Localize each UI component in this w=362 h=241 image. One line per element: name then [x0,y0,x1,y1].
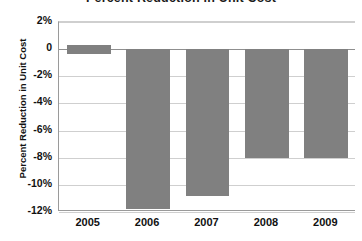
x-axis-tick-label: 2005 [58,216,117,228]
y-axis-tick-label: -6% [0,123,52,135]
x-axis-tick-label: 2009 [296,216,355,228]
x-axis-tick-label: 2008 [236,216,295,228]
y-axis-tick-label: -2% [0,68,52,80]
y-axis-tick-label: -4% [0,95,52,107]
x-axis-tick-label: 2006 [117,216,176,228]
y-axis-tick-label: 0 [0,41,52,53]
bar-chart: Percent Reduction in Unit Cost Percent R… [0,0,362,241]
y-axis-tick-label: -10% [0,177,52,189]
y-axis-tick-labels: 2%0-2%-4%-6%-8%-10%-12% [0,0,362,241]
x-axis-tick-label: 2007 [177,216,236,228]
y-axis-tick-label: -12% [0,204,52,216]
y-axis-tick-label: 2% [0,14,52,26]
y-axis-tick-label: -8% [0,150,52,162]
